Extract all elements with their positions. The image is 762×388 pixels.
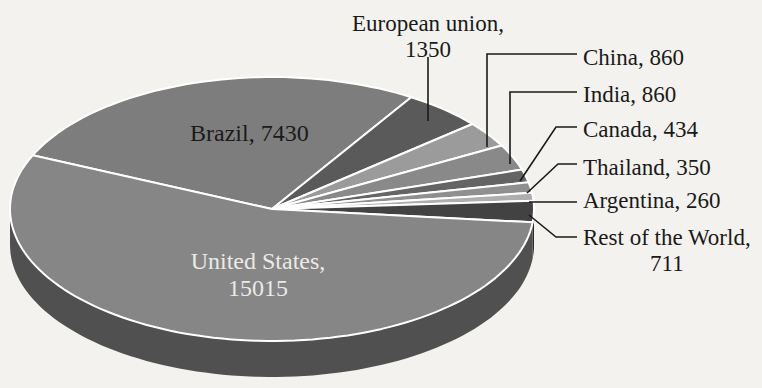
label-thailand: Thailand, 350 bbox=[583, 155, 711, 181]
leader-thailand bbox=[527, 164, 577, 193]
leader-rest-of-world bbox=[529, 215, 577, 237]
label-united-states: United States, 15015 bbox=[191, 248, 326, 302]
label-european-union: European union, 1350 bbox=[352, 11, 504, 63]
leader-india bbox=[510, 92, 577, 164]
leader-china bbox=[487, 54, 577, 147]
pie-chart-figure: European union, 1350 China, 860 India, 8… bbox=[0, 0, 762, 388]
label-india: India, 860 bbox=[583, 82, 676, 108]
label-canada: Canada, 434 bbox=[583, 117, 698, 143]
label-china: China, 860 bbox=[583, 45, 684, 71]
label-rest-of-world: Rest of the World, 711 bbox=[583, 225, 751, 277]
label-brazil: Brazil, 7430 bbox=[190, 120, 309, 147]
label-argentina: Argentina, 260 bbox=[583, 188, 721, 214]
